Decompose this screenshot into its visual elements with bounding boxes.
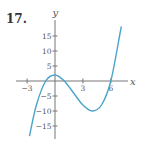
y-tick-label: −15 <box>36 122 52 131</box>
x-tick-label: −3 <box>22 84 33 93</box>
y-tick-label: −5 <box>40 92 51 101</box>
y-axis-label: y <box>52 7 59 18</box>
y-tick-label: 15 <box>42 32 52 41</box>
y-tick-label: 5 <box>47 62 52 71</box>
y-tick-label: −10 <box>36 107 52 116</box>
y-tick-label: 10 <box>42 47 52 56</box>
x-tick-label: 3 <box>81 84 86 93</box>
x-axis-label: x <box>130 76 136 87</box>
chart: −33615105−5−10−15 x y <box>0 0 148 143</box>
